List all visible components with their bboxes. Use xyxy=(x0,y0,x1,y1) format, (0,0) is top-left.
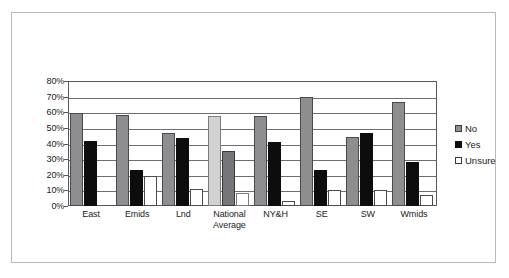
bar-group xyxy=(300,81,341,206)
legend-item-unsure[interactable]: Unsure xyxy=(455,152,509,168)
bar-yes xyxy=(222,151,235,206)
black-square-icon xyxy=(455,141,462,148)
bar-yes xyxy=(314,170,327,206)
legend-label: No xyxy=(465,123,477,134)
bar-group xyxy=(346,81,387,206)
y-axis-tick-mark xyxy=(64,175,68,176)
y-axis-tick-mark xyxy=(64,81,68,82)
y-axis-tick-mark xyxy=(64,159,68,160)
x-axis: EastEmidsLndNational AverageNY&HSESWWmid… xyxy=(68,209,437,249)
bar-yes xyxy=(360,133,373,206)
y-axis-tick-label: 60% xyxy=(47,107,64,117)
chart-legend: NoYesUnsure xyxy=(455,120,509,168)
y-axis-tick-label: 80% xyxy=(47,76,64,86)
bar-group xyxy=(392,81,433,206)
y-axis-tick-mark xyxy=(64,206,68,207)
gray-square-icon xyxy=(455,125,462,132)
bar-no xyxy=(116,115,129,206)
y-axis-tick-mark xyxy=(64,144,68,145)
bar-group xyxy=(162,81,203,206)
chart-page: 80%70%60%50%40%30%20%10%0% EastEmidsLndN… xyxy=(0,0,509,278)
legend-item-no[interactable]: No xyxy=(455,120,509,136)
x-axis-tick-label: Emids xyxy=(114,209,160,220)
y-axis-tick-mark xyxy=(64,128,68,129)
y-axis-tick-mark xyxy=(64,97,68,98)
bar-unsure xyxy=(374,190,387,206)
bar-no xyxy=(162,133,175,206)
bar-no xyxy=(346,137,359,206)
clipped-title xyxy=(96,0,246,9)
x-axis-tick-label: SE xyxy=(299,209,345,220)
legend-label: Yes xyxy=(465,139,481,150)
y-axis-tick-label: 10% xyxy=(47,185,64,195)
legend-item-yes[interactable]: Yes xyxy=(455,136,509,152)
y-axis-tick-label: 20% xyxy=(47,170,64,180)
bar-no xyxy=(300,97,313,206)
x-axis-tick-label: National Average xyxy=(206,209,252,231)
bar-yes xyxy=(130,170,143,206)
chart-frame: 80%70%60%50%40%30%20%10%0% EastEmidsLndN… xyxy=(11,12,496,263)
bar-group xyxy=(116,81,157,206)
bars-layer xyxy=(68,81,437,206)
bar-no xyxy=(392,102,405,206)
y-axis-tick-label: 40% xyxy=(47,139,64,149)
y-axis-tick-mark xyxy=(64,190,68,191)
bar-unsure xyxy=(190,189,203,206)
bar-no xyxy=(254,116,267,206)
x-axis-tick-label: Wmids xyxy=(391,209,437,220)
x-axis-tick-label: Lnd xyxy=(160,209,206,220)
legend-label: Unsure xyxy=(465,155,496,166)
y-axis-tick-label: 30% xyxy=(47,154,64,164)
bar-group xyxy=(208,81,249,206)
bar-yes xyxy=(268,142,281,206)
bar-yes xyxy=(176,138,189,206)
y-axis: 80%70%60%50%40%30%20%10%0% xyxy=(30,76,64,211)
bar-no xyxy=(208,116,221,206)
x-axis-tick-label: SW xyxy=(345,209,391,220)
bar-no xyxy=(70,113,83,206)
bar-unsure xyxy=(144,176,157,206)
white-square-icon xyxy=(455,157,462,164)
bar-group xyxy=(70,81,111,206)
y-axis-tick-mark xyxy=(64,112,68,113)
x-axis-tick-label: East xyxy=(68,209,114,220)
bar-unsure xyxy=(236,193,249,206)
bar-unsure xyxy=(282,201,295,206)
x-axis-tick-label: NY&H xyxy=(253,209,299,220)
y-axis-tick-label: 70% xyxy=(47,92,64,102)
y-axis-tick-label: 50% xyxy=(47,123,64,133)
bar-unsure xyxy=(328,190,341,206)
y-axis-tick-label: 0% xyxy=(51,201,64,211)
bar-group xyxy=(254,81,295,206)
bar-yes xyxy=(406,162,419,206)
bar-unsure xyxy=(420,195,433,206)
bar-yes xyxy=(84,141,97,206)
